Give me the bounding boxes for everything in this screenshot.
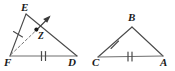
point-label-Z: Z <box>38 32 44 42</box>
segment-ED <box>26 14 77 56</box>
vertex-label-E: E <box>21 2 28 13</box>
vertex-label-C: C <box>92 57 99 68</box>
segment-CA <box>98 56 163 57</box>
segment-EF <box>10 14 26 56</box>
vertex-label-D: D <box>68 57 76 68</box>
triangle-BCA <box>98 27 163 61</box>
vertex-label-F: F <box>4 57 11 68</box>
segment-BA <box>132 27 163 56</box>
geometry-figure: E F D Z B C A <box>0 0 175 71</box>
segment-CB <box>98 27 132 57</box>
vertex-label-A: A <box>160 57 167 68</box>
vertex-label-B: B <box>128 12 135 23</box>
